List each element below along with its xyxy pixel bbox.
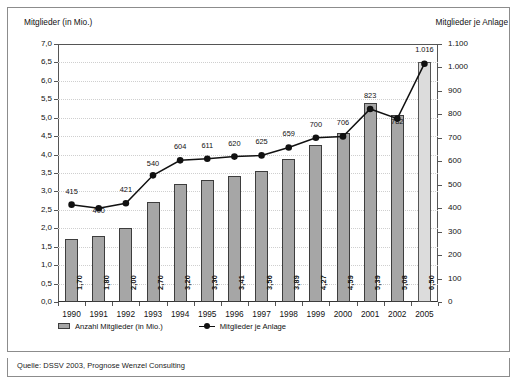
left-axis-tick-mark — [54, 118, 58, 119]
line-point[interactable] — [150, 172, 157, 179]
x-axis-tick-mark — [248, 302, 249, 306]
left-axis-tick-mark — [54, 136, 58, 137]
right-axis-tick-label: 400 — [448, 203, 461, 212]
left-axis-tick-label: 0,0 — [22, 297, 52, 306]
left-axis-tick-mark — [54, 99, 58, 100]
line-value-label: 625 — [245, 137, 279, 146]
left-axis-title: Mitglieder (in Mio.) — [24, 17, 92, 27]
line-point[interactable] — [340, 133, 347, 140]
right-axis-tick-label: 0 — [448, 297, 452, 306]
right-axis-tick-mark — [438, 208, 442, 209]
x-axis-tick-mark — [194, 302, 195, 306]
right-axis-tick-label: 500 — [448, 180, 461, 189]
x-axis-tick-mark — [384, 302, 385, 306]
x-axis-tick-mark — [221, 302, 222, 306]
line-point[interactable] — [231, 153, 238, 160]
left-axis-tick-label: 3,5 — [22, 168, 52, 177]
left-axis-tick-label: 2,0 — [22, 223, 52, 232]
legend-item-bars: Anzahl Mitglieder (in Mio.) — [58, 322, 163, 331]
left-axis-tick-label: 0,5 — [22, 279, 52, 288]
right-axis-tick-label: 1.000 — [448, 62, 468, 71]
left-axis-tick-mark — [54, 44, 58, 45]
left-axis-tick-label: 6,5 — [22, 57, 52, 66]
right-axis-tick-label: 300 — [448, 227, 461, 236]
left-axis-tick-mark — [54, 173, 58, 174]
line-value-label: 1.016 — [407, 45, 441, 54]
left-axis-tick-label: 7,0 — [22, 39, 52, 48]
left-axis-tick-label: 3,0 — [22, 186, 52, 195]
left-axis-tick-mark — [54, 62, 58, 63]
right-axis-tick-mark — [438, 279, 442, 280]
x-axis-tick-mark — [58, 302, 59, 306]
left-axis-tick-label: 5,5 — [22, 94, 52, 103]
x-axis-tick-mark — [167, 302, 168, 306]
legend-label-bars: Anzahl Mitglieder (in Mio.) — [75, 322, 163, 331]
right-axis-tick-label: 800 — [448, 109, 461, 118]
right-axis-tick-mark — [438, 161, 442, 162]
line-value-label: 415 — [55, 187, 89, 196]
left-axis-tick-mark — [54, 284, 58, 285]
left-axis-tick-label: 4,0 — [22, 150, 52, 159]
right-axis-tick-label: 1.100 — [448, 39, 468, 48]
left-axis-tick-label: 1,0 — [22, 260, 52, 269]
line-point[interactable] — [313, 135, 320, 142]
line-point[interactable] — [258, 152, 265, 159]
left-axis-tick-mark — [54, 81, 58, 82]
right-axis-tick-label: 900 — [448, 86, 461, 95]
right-axis-tick-mark — [438, 185, 442, 186]
left-axis-tick-mark — [54, 210, 58, 211]
legend-label-line: Mitglieder je Anlage — [220, 322, 286, 331]
x-axis-tick-mark — [411, 302, 412, 306]
x-axis-tick-mark — [112, 302, 113, 306]
left-axis-tick-label: 6,0 — [22, 76, 52, 85]
line-point[interactable] — [285, 144, 292, 151]
line-value-label: 421 — [109, 185, 143, 194]
left-axis-tick-mark — [54, 265, 58, 266]
right-axis-tick-label: 200 — [448, 250, 461, 259]
line-marker-icon — [199, 322, 215, 330]
x-axis-tick-mark — [302, 302, 303, 306]
x-axis-tick-mark — [329, 302, 330, 306]
line-value-label: 823 — [353, 91, 387, 100]
line-point[interactable] — [367, 106, 374, 113]
right-axis-tick-mark — [438, 138, 442, 139]
left-axis-tick-label: 2,5 — [22, 205, 52, 214]
line-point[interactable] — [421, 60, 428, 67]
line-value-label: 782 — [380, 117, 414, 126]
line-point[interactable] — [68, 201, 75, 208]
right-axis-tick-mark — [438, 255, 442, 256]
right-axis-tick-label: 600 — [448, 156, 461, 165]
line-value-label: 706 — [326, 118, 360, 127]
line-point[interactable] — [204, 155, 211, 162]
left-axis-tick-label: 1,5 — [22, 242, 52, 251]
right-axis-tick-mark — [438, 67, 442, 68]
right-axis-tick-mark — [438, 114, 442, 115]
line-value-label: 400 — [82, 206, 116, 215]
bar-swatch-icon — [58, 323, 70, 329]
left-axis-tick-label: 4,5 — [22, 131, 52, 140]
x-axis-tick-mark — [85, 302, 86, 306]
x-axis-tick-mark — [139, 302, 140, 306]
right-axis-tick-mark — [438, 91, 442, 92]
line-point[interactable] — [177, 157, 184, 164]
chart-figure: Mitglieder (in Mio.) Mitglieder je Anlag… — [0, 0, 517, 384]
left-axis-tick-mark — [54, 228, 58, 229]
left-axis-tick-mark — [54, 155, 58, 156]
left-axis-tick-mark — [54, 191, 58, 192]
source-frame: Quelle: DSSV 2003, Prognose Wenzel Consu… — [7, 358, 510, 377]
right-axis-tick-mark — [438, 44, 442, 45]
source-text: Quelle: DSSV 2003, Prognose Wenzel Consu… — [17, 361, 185, 370]
x-axis-tick-mark — [438, 302, 439, 306]
chart-legend: Anzahl Mitglieder (in Mio.) Mitglieder j… — [58, 318, 438, 334]
x-axis-tick-mark — [275, 302, 276, 306]
legend-item-line: Mitglieder je Anlage — [199, 322, 286, 331]
line-value-label: 659 — [272, 129, 306, 138]
right-axis-tick-label: 700 — [448, 133, 461, 142]
line-point[interactable] — [123, 200, 130, 207]
left-axis-tick-label: 5,0 — [22, 113, 52, 122]
line-value-label: 540 — [136, 159, 170, 168]
right-axis-tick-mark — [438, 232, 442, 233]
x-axis-tick-mark — [357, 302, 358, 306]
line-series — [58, 44, 438, 302]
right-axis-title: Mitglieder je Anlage — [436, 17, 508, 27]
